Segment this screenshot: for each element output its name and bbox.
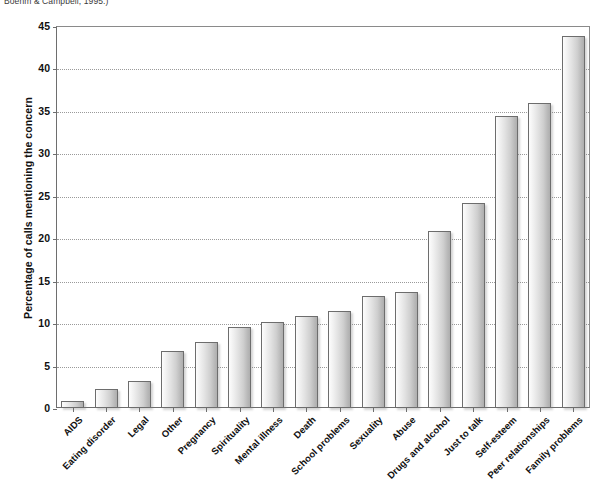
- bar-column: [323, 26, 356, 408]
- bar: [562, 36, 585, 408]
- x-tick-mark: [573, 408, 574, 412]
- bar: [428, 231, 451, 408]
- y-tick-label: 5: [16, 360, 50, 372]
- x-tick-mark: [406, 408, 407, 412]
- bar-column: [89, 26, 122, 408]
- y-tick-label: 15: [16, 275, 50, 287]
- bar-column: [523, 26, 556, 408]
- bar-column: [490, 26, 523, 408]
- bar-column: [223, 26, 256, 408]
- x-tick-mark: [173, 408, 174, 412]
- y-tick-label: 0: [16, 402, 50, 414]
- x-tick-mark: [73, 408, 74, 412]
- bar-column: [423, 26, 456, 408]
- x-tick-label: Sexuality: [347, 414, 385, 452]
- x-tick-mark: [340, 408, 341, 412]
- x-tick-mark: [473, 408, 474, 412]
- bar-chart: Percentage of calls mentioning the conce…: [0, 0, 605, 492]
- bar: [161, 351, 184, 408]
- bar-column: [123, 26, 156, 408]
- x-tick-mark: [240, 408, 241, 412]
- x-tick-label: Family problems: [523, 414, 585, 476]
- y-tick-label: 10: [16, 317, 50, 329]
- y-tick-label: 35: [16, 105, 50, 117]
- x-tick-mark: [106, 408, 107, 412]
- bar: [195, 342, 218, 408]
- x-tick-mark: [440, 408, 441, 412]
- bar-column: [356, 26, 389, 408]
- bar: [128, 381, 151, 408]
- y-tick-label: 45: [16, 20, 50, 32]
- y-tick-label: 25: [16, 190, 50, 202]
- bar-column: [457, 26, 490, 408]
- bar-series: [56, 26, 590, 408]
- bar: [328, 311, 351, 408]
- x-tick-mark: [306, 408, 307, 412]
- x-tick-mark: [273, 408, 274, 412]
- x-tick-label: School problems: [289, 414, 352, 477]
- x-tick-label: Other: [159, 414, 185, 440]
- bar-column: [56, 26, 89, 408]
- bar: [261, 322, 284, 408]
- bar-column: [256, 26, 289, 408]
- bar: [462, 203, 485, 408]
- x-tick-mark: [540, 408, 541, 412]
- y-tick-label: 20: [16, 232, 50, 244]
- bar-column: [557, 26, 590, 408]
- bar: [61, 401, 84, 408]
- x-tick-mark: [373, 408, 374, 412]
- bar: [95, 389, 118, 408]
- x-tick-mark: [507, 408, 508, 412]
- bar-column: [190, 26, 223, 408]
- x-tick-label: AIDS: [60, 414, 84, 438]
- x-tick-mark: [206, 408, 207, 412]
- bar: [395, 292, 418, 408]
- bar-column: [156, 26, 189, 408]
- bar-column: [290, 26, 323, 408]
- bar-column: [390, 26, 423, 408]
- x-tick-label: Legal: [126, 414, 152, 440]
- x-tick-label: Death: [291, 414, 318, 441]
- x-axis-labels: AIDSEating disorderLegalOtherPregnancySp…: [56, 408, 590, 492]
- bar: [295, 316, 318, 408]
- y-tick-label: 40: [16, 62, 50, 74]
- bar: [528, 103, 551, 408]
- bar: [495, 116, 518, 408]
- y-tick-label: 30: [16, 147, 50, 159]
- x-tick-label: Abuse: [390, 414, 418, 442]
- bar: [362, 296, 385, 408]
- x-tick-mark: [139, 408, 140, 412]
- bar: [228, 327, 251, 408]
